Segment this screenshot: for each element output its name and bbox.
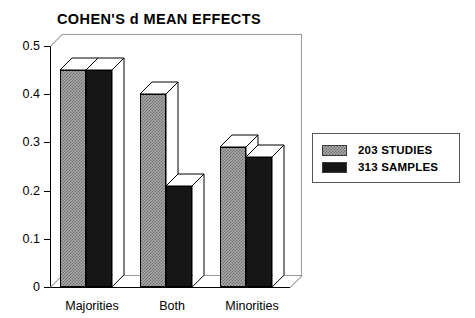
xtick-label-majorities: Majorities [65,300,119,313]
back-wall-top [62,34,302,35]
bar-majorities-samples [86,58,124,287]
legend-label-samples: 313 SAMPLES [358,161,438,174]
bar-both-samples [166,174,204,287]
bar-minorities-samples [246,145,284,287]
back-wall-right [301,34,302,275]
chart-legend: 203 STUDIES 313 SAMPLES [312,133,460,183]
bar-front-face [166,186,192,287]
ytick-mark-4 [44,94,50,95]
bar-front-face [86,70,112,287]
ytick-mark-3 [44,142,50,143]
bar-front-face [246,157,272,287]
chart-figure: COHEN'S d MEAN EFFECTS 00.10.20.30.40.5M… [0,0,475,318]
ytick-label-4: 0.4 [10,88,40,100]
gray-hatch-swatch [322,145,347,156]
legend-label-studies: 203 STUDIES [358,144,432,157]
xtick-label-both: Both [159,300,185,313]
bar-front-face [140,94,166,287]
ytick-mark-0 [44,287,50,288]
y-axis-line [50,46,51,287]
bar-front-face [220,147,246,287]
ytick-label-0: 0 [10,281,40,293]
xtick-label-minorities: Minorities [225,300,279,313]
bar-front-face [60,70,86,287]
plot-area: 00.10.20.30.40.5MajoritiesBothMinorities [0,0,310,318]
legend-item-studies: 203 STUDIES [322,144,454,158]
ytick-mark-2 [44,191,50,192]
axis-depth-top-left [50,34,63,47]
ytick-label-2: 0.2 [10,185,40,197]
ytick-label-3: 0.3 [10,136,40,148]
legend-item-samples: 313 SAMPLES [322,161,454,175]
ytick-mark-5 [44,46,50,47]
black-swatch [322,162,347,173]
ytick-label-5: 0.5 [10,40,40,52]
floor-right-depth [290,275,303,288]
ytick-mark-1 [44,239,50,240]
ytick-label-1: 0.1 [10,233,40,245]
